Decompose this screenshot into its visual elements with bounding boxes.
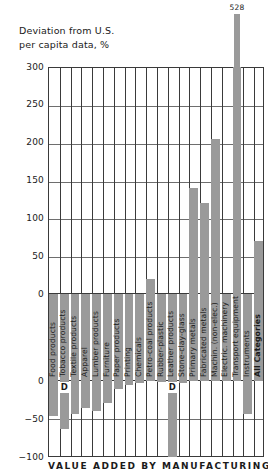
gridline--50 bbox=[49, 419, 263, 420]
column-separator bbox=[103, 68, 104, 293]
bar-positive bbox=[146, 279, 155, 294]
column-separator bbox=[254, 381, 255, 456]
column-separator bbox=[60, 68, 61, 293]
plot-area-positive bbox=[48, 67, 264, 294]
category-label: Paper products bbox=[112, 319, 121, 377]
column-separator bbox=[233, 381, 234, 456]
column-separator bbox=[135, 381, 136, 456]
category-label: Transport equipment bbox=[231, 296, 240, 377]
bar-positive bbox=[200, 203, 209, 294]
chart-container: Deviation from U.S. per capita data, % V… bbox=[0, 0, 268, 474]
column-separator bbox=[125, 381, 126, 456]
gridline-100 bbox=[49, 219, 263, 220]
y-tick-100: 100 bbox=[4, 213, 44, 223]
y-tick-lower--50: −50 bbox=[4, 414, 44, 424]
column-separator bbox=[146, 68, 147, 293]
gridline-250 bbox=[49, 106, 263, 107]
plot-area-negative bbox=[48, 381, 264, 457]
y-tick-50: 50 bbox=[4, 251, 44, 261]
column-separator bbox=[222, 68, 223, 293]
category-label: Stone-clay-glass bbox=[177, 313, 186, 377]
column-separator bbox=[92, 68, 93, 293]
chart-caption: VALUE ADDED BY MANUFACTURING bbox=[48, 461, 264, 471]
category-label: Machin. (non-elec.) bbox=[210, 302, 219, 377]
column-separator bbox=[146, 381, 147, 456]
y-tick-250: 250 bbox=[4, 99, 44, 109]
y-axis-title: Deviation from U.S. per capita data, % bbox=[19, 24, 114, 51]
column-separator bbox=[179, 381, 180, 456]
category-label: Electric. machinery bbox=[220, 302, 229, 377]
column-separator bbox=[211, 381, 212, 456]
category-label: Primary metals bbox=[188, 318, 197, 377]
y-tick-lower-0: 0 bbox=[4, 376, 44, 386]
category-label: All Categories bbox=[253, 314, 262, 377]
category-label: Food products bbox=[48, 322, 57, 377]
category-label: Leather products bbox=[166, 311, 175, 377]
suppressed-data-marker: D bbox=[168, 382, 177, 393]
category-label: Fabricated metals bbox=[199, 307, 208, 377]
y-tick-0: 0 bbox=[4, 289, 44, 299]
bar-overflow-stub bbox=[234, 14, 241, 67]
gridline-50 bbox=[49, 257, 263, 258]
gridline-200 bbox=[49, 144, 263, 145]
category-label: Textile products bbox=[69, 316, 78, 377]
column-separator bbox=[71, 68, 72, 293]
column-separator bbox=[135, 68, 136, 293]
bar-positive bbox=[233, 67, 242, 294]
category-label: Rubber-plastic bbox=[156, 321, 165, 377]
y-tick-150: 150 bbox=[4, 175, 44, 185]
category-label: Lumber products bbox=[91, 311, 100, 377]
column-separator bbox=[81, 68, 82, 293]
column-separator bbox=[114, 381, 115, 456]
column-separator bbox=[125, 68, 126, 293]
column-separator bbox=[168, 68, 169, 293]
column-separator bbox=[179, 68, 180, 293]
category-label: Instruments bbox=[242, 330, 251, 377]
category-label: Printing bbox=[123, 347, 132, 377]
category-label: Apparel bbox=[80, 347, 89, 377]
y-tick-200: 200 bbox=[4, 137, 44, 147]
column-separator bbox=[200, 381, 201, 456]
column-separator bbox=[189, 381, 190, 456]
column-separator bbox=[157, 68, 158, 293]
bar-positive bbox=[189, 188, 198, 294]
column-separator bbox=[114, 68, 115, 293]
column-separator bbox=[222, 381, 223, 456]
y-axis-title-line2: per capita data, % bbox=[19, 38, 114, 52]
column-separator bbox=[243, 68, 244, 293]
overflow-value-label: 528 bbox=[226, 3, 249, 12]
y-axis-title-line1: Deviation from U.S. bbox=[19, 24, 114, 38]
category-label: Furniture bbox=[102, 342, 111, 377]
category-label: Petro-coal products bbox=[145, 301, 154, 377]
column-separator bbox=[157, 381, 158, 456]
bar-positive bbox=[211, 139, 220, 294]
y-tick-lower--100: −100 bbox=[4, 452, 44, 462]
category-label: Tobacco products bbox=[58, 309, 67, 377]
category-label: Chemicals bbox=[134, 337, 143, 377]
gridline-150 bbox=[49, 182, 263, 183]
suppressed-data-marker: D bbox=[60, 382, 69, 393]
y-tick-300: 300 bbox=[4, 62, 44, 72]
bar-positive bbox=[254, 241, 263, 294]
